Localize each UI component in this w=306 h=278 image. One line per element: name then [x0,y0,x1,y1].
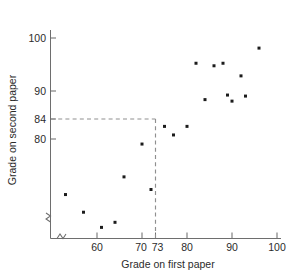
data-point [150,188,153,191]
data-point [100,226,103,229]
plot-canvas: 100 90 84 80 Grade on second paper 60 70 [0,0,306,278]
x-axis-break-icon [57,234,66,239]
y-axis-ticks [51,38,57,139]
x-tick-label-60: 60 [91,241,103,253]
y-tick-label-80: 80 [34,133,46,145]
data-point [195,62,198,65]
data-points-layer [64,47,261,229]
x-tick-label-80: 80 [181,241,193,253]
data-point [258,47,261,50]
x-tick-label-100: 100 [268,241,286,253]
y-tick-label-100: 100 [28,32,46,44]
x-tick-label-90: 90 [226,241,238,253]
y-axis: 100 90 84 80 Grade on second paper [6,30,56,228]
data-point [141,143,144,146]
data-point [163,125,166,128]
data-point [123,175,126,178]
data-point [114,221,117,224]
y-tick-label-84: 84 [34,113,46,125]
data-point [231,100,234,103]
data-point [213,64,216,67]
x-axis-title: Grade on first paper [121,258,215,270]
data-point [64,193,67,196]
y-tick-label-90: 90 [34,85,46,97]
data-point [240,74,243,77]
y-axis-tick-labels: 100 90 84 80 [28,32,46,145]
data-point [226,94,229,97]
scatter-plot-figure: 100 90 84 80 Grade on second paper 60 70 [0,0,306,278]
data-point [82,211,85,214]
data-point [186,125,189,128]
data-point [172,133,175,136]
data-point [244,95,247,98]
reference-lines [51,119,156,238]
x-tick-label-70: 70 [135,241,147,253]
data-point [222,62,225,65]
y-axis-title: Grade on second paper [6,74,18,185]
data-point [204,98,207,101]
x-axis-ticks [97,233,277,239]
x-axis: 60 70 73 80 90 100 Grade on first paper [51,228,286,270]
x-tick-label-73: 73 [152,241,164,253]
x-axis-tick-labels: 60 70 73 80 90 100 [91,241,286,253]
y-axis-break-icon [46,213,51,222]
